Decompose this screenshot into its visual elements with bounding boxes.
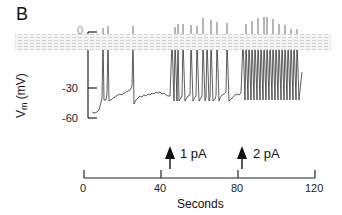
chart-plot (0, 0, 342, 215)
spike-peaks (103, 17, 297, 34)
y-axis-label: Vm (mV) (14, 73, 29, 118)
y-tick-minus60: -60 (62, 112, 78, 124)
x-tick-0: 0 (80, 182, 86, 194)
y-axis-label-unit: (mV) (14, 73, 28, 102)
x-tick-120: 120 (305, 182, 323, 194)
y-axis-label-main: V (14, 110, 28, 118)
x-axis (84, 170, 315, 178)
y-tick-minus30: -30 (62, 82, 78, 94)
y-tick-0: 0 (77, 24, 83, 36)
membrane-trace (92, 40, 302, 113)
stim-label-2pa: 2 pA (253, 146, 280, 161)
x-tick-80: 80 (231, 182, 243, 194)
stim-label-1pa: 1 pA (180, 146, 207, 161)
x-axis-label: Seconds (177, 197, 224, 211)
x-tick-40: 40 (154, 182, 166, 194)
y-axis-label-sub: m (19, 102, 29, 110)
hatched-band (15, 34, 331, 50)
